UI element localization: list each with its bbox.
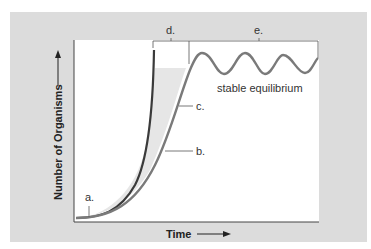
label-stable-equilibrium: stable equilibrium <box>217 82 303 94</box>
label-e: e. <box>254 24 263 36</box>
x-axis-label: Time <box>166 228 191 240</box>
plot-area <box>74 40 319 222</box>
label-d: d. <box>166 24 175 36</box>
label-b: b. <box>196 145 205 157</box>
x-axis-arrow-icon <box>197 231 231 237</box>
label-c: c. <box>196 100 205 112</box>
y-axis-label: Number of Organisms <box>52 84 64 200</box>
label-a: a. <box>85 191 94 203</box>
growth-curve-chart: d. e. stable equilibrium c. b. a. Number… <box>0 0 371 249</box>
y-axis-arrow-icon <box>55 50 61 86</box>
